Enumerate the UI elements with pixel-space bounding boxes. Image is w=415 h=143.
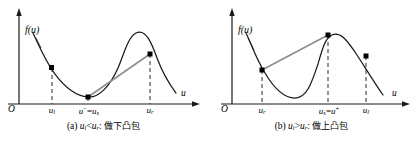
marker-ur — [148, 52, 153, 57]
fu-leader-line — [248, 38, 254, 50]
origin-label-b: O — [221, 104, 228, 114]
x-axis-label-a: u — [181, 88, 186, 98]
curve-label-fu-a: f(u) — [25, 24, 39, 35]
figure-container: f(u) u O ul u−=us ur (a) ul<ur: 做下凸包 — [0, 0, 415, 143]
marker-ul — [49, 65, 54, 70]
marker-umid — [326, 33, 331, 38]
tick-label-ul-a: ul — [49, 105, 55, 115]
fu-leader-line — [36, 38, 41, 48]
caption-a: (a) ul<ur: 做下凸包 — [0, 120, 207, 134]
x-axis — [221, 101, 410, 106]
tick-label-umid-a: u−=us — [79, 105, 99, 116]
panel-a: f(u) u O ul u−=us ur (a) ul<ur: 做下凸包 — [0, 0, 207, 143]
panel-b: f(u) u O ur us=u+ ul (b) ul>ur: 做上凸包 — [208, 0, 415, 143]
y-axis — [16, 8, 21, 104]
tick-label-ul-b: ul — [363, 105, 369, 115]
marker-umid — [86, 95, 91, 100]
tick-label-ur-b: ur — [258, 105, 265, 115]
function-curve — [33, 32, 176, 97]
marker-ur — [260, 68, 265, 73]
origin-label-a: O — [8, 104, 15, 114]
x-axis — [8, 101, 200, 106]
curve-label-fu-b: f(u) — [238, 24, 252, 35]
caption-b: (b) ul>ur: 做上凸包 — [208, 120, 415, 134]
convex-hull-chord — [88, 54, 150, 97]
panel-b-plot — [208, 0, 415, 120]
marker-ul — [364, 54, 369, 59]
panel-a-plot — [0, 0, 207, 120]
x-axis-label-b: u — [392, 88, 397, 98]
y-axis — [229, 8, 234, 104]
tick-label-umid-b: us=u+ — [319, 105, 339, 116]
tick-label-ur-a: ur — [146, 105, 153, 115]
